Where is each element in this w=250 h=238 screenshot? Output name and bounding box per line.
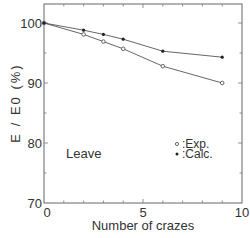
filled-circle-marker-icon — [221, 56, 224, 59]
x-axis-label: Number of crazes — [92, 218, 195, 233]
annotation-leave: Leave — [66, 146, 101, 161]
x-tick-label: 10 — [235, 205, 249, 220]
open-circle-marker-icon — [161, 64, 165, 68]
legend-calc-label: :Calc. — [182, 147, 213, 161]
chart: 7080901000510 Leave :Exp. :Calc. Number … — [0, 0, 250, 238]
open-circle-marker-icon — [82, 33, 86, 37]
filled-circle-marker-icon — [82, 29, 85, 32]
x-tick-label: 0 — [43, 205, 50, 220]
legend: :Exp. :Calc. — [175, 137, 212, 161]
axis-ticks — [44, 4, 242, 203]
open-circle-marker-icon — [220, 81, 224, 85]
y-axis-label: E / E0 (%) — [8, 63, 23, 142]
filled-circle-marker-icon — [42, 21, 45, 24]
filled-circle-marker-icon — [122, 38, 125, 41]
legend-calc-marker-icon — [176, 153, 179, 156]
data-series — [42, 21, 224, 85]
y-tick-label: 90 — [28, 76, 42, 91]
plot-frame — [44, 4, 242, 203]
y-tick-label: 100 — [20, 16, 42, 31]
tick-labels: 7080901000510 — [20, 16, 249, 220]
y-tick-label: 80 — [28, 136, 42, 151]
filled-circle-marker-icon — [102, 33, 105, 36]
series-line-calc — [44, 23, 222, 57]
y-tick-label: 70 — [28, 196, 42, 211]
legend-exp-marker-icon — [175, 142, 178, 145]
filled-circle-marker-icon — [161, 50, 164, 53]
series-line-exp — [44, 23, 222, 83]
open-circle-marker-icon — [102, 40, 106, 44]
open-circle-marker-icon — [121, 47, 125, 51]
